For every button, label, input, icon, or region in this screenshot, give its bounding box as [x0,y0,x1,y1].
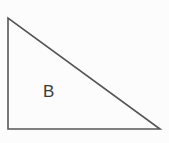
triangle-label-b: B [43,83,54,100]
triangle-diagram-svg [0,0,169,143]
triangle-shape-b [8,18,160,129]
figure-canvas: B [0,0,169,143]
